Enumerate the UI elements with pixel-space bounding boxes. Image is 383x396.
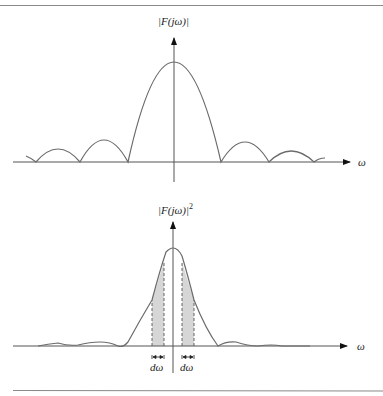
dw-indicator-left — [152, 355, 164, 359]
top-x-label-text: ω — [358, 156, 366, 168]
bottom-rule — [13, 391, 383, 392]
top-magnitude-curve — [26, 62, 325, 162]
figure-canvas — [0, 0, 383, 396]
bottom-x-axis-label: ω — [357, 340, 365, 352]
shaded-band-left — [152, 262, 164, 346]
top-y-label-text: |F(jω)| — [158, 15, 189, 27]
bottom-y-label-text: |F(jω)| — [158, 204, 189, 216]
shaded-band-right — [182, 262, 194, 346]
bottom-energy-curve — [38, 248, 310, 347]
top-x-axis-label: ω — [358, 156, 366, 168]
band-label-left-text: dω — [150, 361, 163, 373]
top-y-axis-label: |F(jω)| — [158, 15, 189, 27]
bottom-x-label-text: ω — [357, 340, 365, 352]
dw-indicator-right — [182, 355, 194, 359]
bottom-y-label-exponent: 2 — [189, 202, 193, 211]
bottom-plot — [13, 222, 347, 373]
top-plot — [13, 38, 350, 182]
band-label-right-text: dω — [180, 361, 193, 373]
band-label-left: dω — [150, 361, 163, 373]
bottom-y-axis-label: |F(jω)|2 — [158, 202, 193, 216]
band-label-right: dω — [180, 361, 193, 373]
